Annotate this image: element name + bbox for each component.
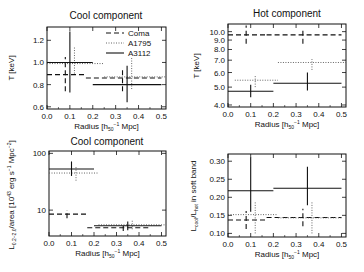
x-tick-label: 0.5 (336, 240, 348, 249)
plot-frame (49, 151, 166, 236)
x-tick-label: 0.2 (268, 240, 280, 249)
y-axis-label-luminosity: L0.2−2.0/area [1043 erg s−1 Mpc−2] (6, 140, 17, 249)
x-axis-label: Radius [h50−1 Mpc] (74, 121, 139, 132)
y-label-part: in soft band (189, 161, 198, 205)
y-tick-label: 0.20 (209, 193, 225, 202)
legend-label: A3112 (128, 49, 151, 58)
x-tick-label: 0.2 (268, 110, 280, 119)
figure: 0.00.10.20.30.40.50.60.81.01.2Radius [h5… (0, 0, 364, 272)
x-tick-label: 0.0 (43, 239, 55, 248)
x-tick-label: 0.4 (313, 110, 325, 119)
panel2-title: Hot component (253, 8, 321, 19)
panel1-title: Cool component (70, 10, 143, 21)
y-tick-label: 0.30 (209, 157, 225, 166)
y-tick-label: 0.15 (209, 211, 225, 220)
y-tick-label: 0.6 (33, 103, 45, 112)
y-tick-label: 100 (33, 149, 47, 158)
x-tick-label: 0.0 (222, 240, 234, 249)
x-tick-label: 0.0 (41, 112, 53, 121)
x-tick-label: 0.3 (291, 110, 303, 119)
y-axis-label-ratio: Lcool/Lhot in soft band (189, 161, 199, 232)
plot-frame (228, 24, 346, 107)
x-tick-label: 0.3 (111, 239, 123, 248)
x-axis-label: Radius [h50−1 Mpc] (75, 248, 140, 259)
y-tick-label: 7.0 (214, 56, 226, 65)
panel-cool-luminosity: 0.00.10.20.30.40.510100Radius [h50−1 Mpc… (33, 149, 168, 259)
y-label-part: 0.2−2.0 (11, 228, 17, 245)
y-tick-label: 8.0 (214, 45, 226, 54)
x-label-part: Radius [h (255, 250, 289, 259)
y-label-part: cool (193, 218, 199, 227)
x-tick-label: 0.1 (245, 240, 257, 249)
legend-label: A1795 (128, 39, 152, 48)
x-tick-label: 0.5 (156, 239, 168, 248)
x-label-end: Mpc] (300, 250, 320, 259)
x-label-end: Mpc] (119, 122, 139, 131)
y-tick-label: 4.0 (214, 101, 226, 110)
x-label-part: Radius [h (75, 249, 109, 258)
panel3-title: Cool component (71, 136, 144, 147)
x-tick-label: 0.4 (313, 240, 325, 249)
x-tick-label: 0.4 (133, 239, 145, 248)
x-tick-label: 0.2 (87, 112, 99, 121)
x-axis-label: Radius [h50−1 Mpc] (255, 249, 320, 260)
x-tick-label: 0.4 (133, 112, 145, 121)
y-tick-label: 10 (37, 206, 46, 215)
x-label-part: Radius [h (74, 122, 108, 131)
x-tick-label: 0.5 (336, 110, 348, 119)
legend: ComaA1795A3112 (106, 29, 152, 58)
x-tick-label: 0.1 (245, 110, 257, 119)
y-tick-label: 1.2 (33, 36, 45, 45)
legend-label: Coma (128, 29, 150, 38)
y-label-part: erg s (7, 171, 16, 191)
y-tick-label: 6.0 (214, 69, 226, 78)
panel-luminosity-ratio: 0.00.10.20.30.40.50.100.150.200.250.30Ra… (209, 154, 347, 260)
x-label-end: Mpc] (120, 249, 140, 258)
x-tick-label: 0.1 (66, 239, 78, 248)
y-tick-label: 0.25 (209, 175, 225, 184)
x-axis-label: Radius [h50−1 Mpc] (255, 119, 320, 130)
x-label-end: Mpc] (300, 120, 320, 129)
y-label-part: Mpc (7, 148, 16, 165)
x-label-part: Radius [h (255, 120, 289, 129)
y-tick-label: 9.0 (214, 36, 226, 45)
panel-hot-temperature: 0.00.10.20.30.40.54.05.06.07.08.09.010.0… (209, 24, 347, 130)
y-tick-label: 0.8 (33, 81, 45, 90)
y-tick-label: 0.10 (209, 229, 225, 238)
x-tick-label: 0.3 (110, 112, 122, 121)
y-tick-label: 1.0 (33, 58, 45, 67)
y-tick-label: 5.0 (214, 83, 226, 92)
y-label-part: /area [10 (7, 196, 16, 228)
x-tick-label: 0.5 (156, 112, 168, 121)
x-tick-label: 0.1 (64, 112, 76, 121)
y-tick-label: 10.0 (209, 28, 225, 37)
y-label-part: ] (7, 140, 16, 142)
x-tick-label: 0.0 (222, 110, 234, 119)
y-axis-label-temperature-hot: T [keV] (192, 53, 201, 78)
x-tick-label: 0.3 (291, 240, 303, 249)
x-tick-label: 0.2 (88, 239, 100, 248)
y-axis-label-temperature-cool: T [keV] (7, 55, 16, 80)
